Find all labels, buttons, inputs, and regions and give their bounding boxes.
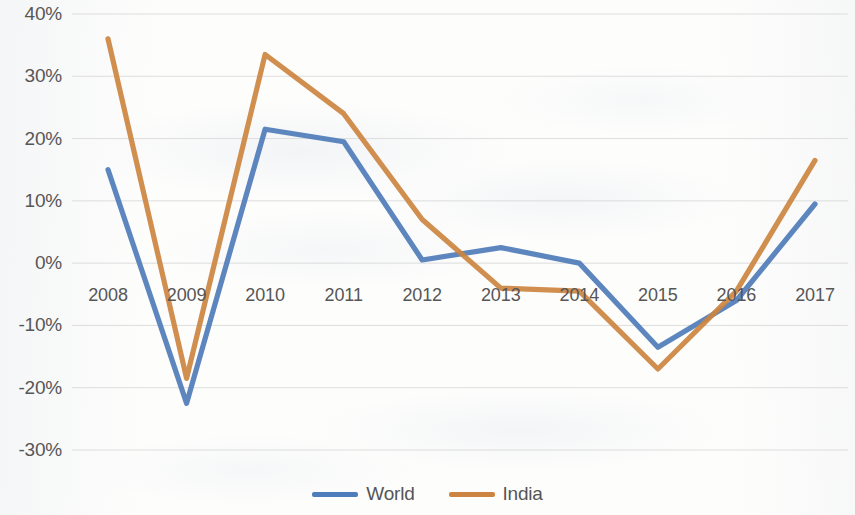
legend-line-swatch-icon bbox=[449, 492, 495, 497]
y-axis-tick-label: -30% bbox=[4, 439, 62, 461]
x-axis-tick-label: 2016 bbox=[701, 285, 771, 306]
y-axis-tick-label: 10% bbox=[4, 190, 62, 212]
x-axis-tick-label: 2009 bbox=[152, 285, 222, 306]
x-axis-tick-label: 2017 bbox=[780, 285, 850, 306]
series-line-india bbox=[108, 39, 815, 379]
x-axis-tick-label: 2012 bbox=[387, 285, 457, 306]
x-axis-tick-label: 2010 bbox=[230, 285, 300, 306]
line-chart: 40%30%20%10%0%-10%-20%-30% 2008200920102… bbox=[0, 0, 855, 515]
legend-line-swatch-icon bbox=[312, 492, 358, 497]
x-axis-tick-label: 2014 bbox=[544, 285, 614, 306]
x-axis-tick-label: 2015 bbox=[623, 285, 693, 306]
series-lines-group bbox=[108, 39, 815, 403]
y-axis-tick-label: 40% bbox=[4, 3, 62, 25]
legend-label: India bbox=[503, 483, 543, 505]
y-axis-tick-label: 30% bbox=[4, 65, 62, 87]
y-axis-tick-label: 0% bbox=[4, 252, 62, 274]
y-axis-tick-label: -10% bbox=[4, 314, 62, 336]
legend-item-india[interactable]: India bbox=[449, 483, 543, 505]
y-axis-tick-label: -20% bbox=[4, 377, 62, 399]
chart-legend: WorldIndia bbox=[0, 483, 855, 505]
gridlines-group bbox=[72, 14, 848, 450]
x-axis-tick-label: 2013 bbox=[466, 285, 536, 306]
chart-plot-area bbox=[0, 0, 855, 515]
x-axis-tick-label: 2011 bbox=[309, 285, 379, 306]
legend-label: World bbox=[366, 483, 414, 505]
legend-item-world[interactable]: World bbox=[312, 483, 414, 505]
x-axis-tick-label: 2008 bbox=[73, 285, 143, 306]
y-axis-tick-label: 20% bbox=[4, 128, 62, 150]
